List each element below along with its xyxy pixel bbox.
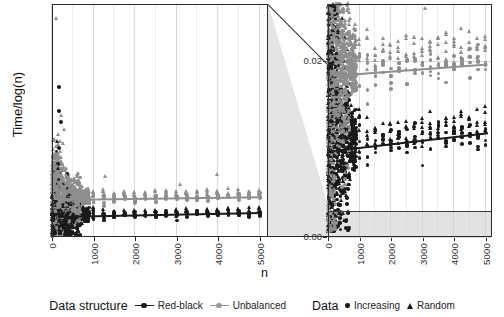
data-point-random <box>420 61 424 65</box>
data-point-random <box>347 226 351 230</box>
data-point-random <box>77 202 81 206</box>
data-point-random <box>55 139 59 143</box>
data-point-random <box>352 26 356 30</box>
data-point-random <box>333 175 337 178</box>
data-point-random <box>412 35 416 39</box>
line-key-unbalanced-icon <box>210 301 229 311</box>
data-point-increasing <box>59 120 63 124</box>
data-point-random <box>381 121 385 125</box>
data-point-random <box>459 55 463 59</box>
data-point-increasing <box>206 199 210 203</box>
data-point-random <box>50 182 54 185</box>
legend-item-red-black[interactable]: Red-black <box>135 300 203 311</box>
data-point-random <box>78 233 82 237</box>
data-point-random <box>339 105 343 109</box>
line-key-red-black-icon <box>135 301 154 311</box>
data-point-random <box>348 177 352 181</box>
data-point-increasing <box>366 88 370 92</box>
data-point-increasing <box>460 142 464 146</box>
data-point-random <box>347 22 351 26</box>
data-point-random <box>420 120 424 124</box>
data-point-random <box>436 126 440 130</box>
data-point-random <box>349 103 353 107</box>
data-point-random <box>326 204 330 207</box>
data-point-random <box>101 189 105 193</box>
data-point-random <box>326 141 330 144</box>
x-tick-label: 4000 <box>213 243 224 265</box>
x-tick-label: 1000 <box>355 243 366 265</box>
legend-item-unbalanced[interactable]: Unbalanced <box>210 300 286 311</box>
data-point-random <box>483 122 487 126</box>
data-point-random <box>174 191 178 195</box>
data-point-random <box>247 191 251 195</box>
data-point-increasing <box>476 148 480 152</box>
data-point-random <box>65 190 69 193</box>
data-point-random <box>178 182 182 186</box>
data-point-random <box>467 54 471 58</box>
data-point-increasing <box>397 61 401 65</box>
data-point-increasing <box>58 229 61 232</box>
data-point-increasing <box>332 5 335 8</box>
data-point-random <box>326 37 330 40</box>
data-point-random <box>69 203 73 206</box>
data-point-increasing <box>51 227 54 230</box>
legend-label-unbalanced: Unbalanced <box>233 300 286 311</box>
data-point-random <box>327 192 331 195</box>
data-point-random <box>58 155 62 159</box>
data-point-random <box>333 104 337 107</box>
data-point-random <box>483 110 487 114</box>
data-point-random <box>343 170 347 174</box>
data-point-random <box>420 125 424 129</box>
data-point-increasing <box>405 151 409 155</box>
data-point-random <box>404 124 408 128</box>
data-point-random <box>346 1 350 5</box>
data-point-random <box>444 49 448 53</box>
data-point-random <box>365 35 369 39</box>
zoom-highlight-band <box>329 211 491 236</box>
legend-item-increasing[interactable]: Increasing <box>345 300 400 311</box>
data-point-random <box>467 117 471 121</box>
zoom-highlight-band-edge <box>329 211 491 212</box>
data-point-random <box>353 22 357 26</box>
data-point-increasing <box>346 119 350 123</box>
data-point-increasing <box>429 52 433 56</box>
data-point-random <box>143 192 147 196</box>
gridline-vertical <box>176 5 177 236</box>
data-point-random <box>420 144 424 148</box>
data-point-random <box>412 54 416 58</box>
data-point-random <box>336 29 340 32</box>
data-point-random <box>112 193 116 197</box>
data-point-increasing <box>334 90 337 93</box>
data-point-increasing <box>328 181 331 184</box>
data-point-random <box>50 215 54 218</box>
data-point-random <box>483 37 487 41</box>
data-point-increasing <box>397 146 401 150</box>
data-point-random <box>436 42 440 46</box>
legend-item-random[interactable]: Random <box>407 300 455 311</box>
data-point-increasing <box>327 168 330 171</box>
data-point-increasing <box>335 37 338 40</box>
data-point-random <box>373 58 377 62</box>
data-point-random <box>329 102 333 105</box>
data-point-random <box>55 164 59 167</box>
data-point-random <box>332 129 336 132</box>
data-point-random <box>459 127 463 131</box>
data-point-random <box>330 182 334 185</box>
data-point-increasing <box>72 192 75 195</box>
data-point-increasing <box>366 155 370 159</box>
data-point-random <box>444 40 448 44</box>
data-point-random <box>354 61 358 65</box>
data-point-random <box>339 198 343 202</box>
data-point-increasing <box>468 141 472 145</box>
data-point-random <box>346 110 350 114</box>
data-point-random <box>452 124 456 128</box>
data-point-random <box>205 192 209 196</box>
data-point-increasing <box>374 83 378 87</box>
data-point-random <box>333 13 337 16</box>
data-point-random <box>381 48 385 52</box>
data-point-increasing <box>366 102 370 106</box>
data-point-increasing <box>389 149 393 153</box>
data-point-increasing <box>444 140 448 144</box>
data-point-increasing <box>476 145 480 149</box>
data-point-random <box>404 119 408 123</box>
